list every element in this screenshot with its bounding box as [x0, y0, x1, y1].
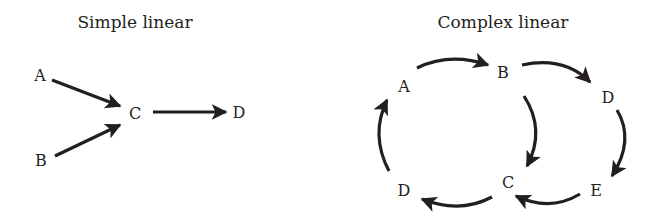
- complex-node-d-bottom: D: [398, 181, 411, 200]
- simple-node-a: A: [34, 66, 46, 85]
- arrow-d-bottom-to-a: [379, 100, 389, 171]
- arrow-e-to-c: [516, 194, 580, 204]
- arrow-b-to-c: [524, 96, 536, 166]
- complex-linear-title: Complex linear: [438, 12, 569, 32]
- complex-node-a: A: [398, 77, 410, 96]
- arrow-b-to-c: [55, 125, 120, 156]
- arrow-a-to-b: [417, 59, 488, 68]
- arrow-c-to-d-bottom: [422, 197, 492, 206]
- simple-node-b: B: [35, 151, 47, 170]
- simple-node-c: C: [129, 104, 141, 123]
- arrow-b-to-d-top: [522, 63, 590, 82]
- complex-node-d-top: D: [602, 88, 615, 107]
- arrow-a-to-c: [52, 80, 120, 106]
- complex-node-b: B: [497, 63, 509, 82]
- simple-node-d: D: [233, 103, 246, 122]
- diagram-arrows: [0, 0, 659, 224]
- arrow-d-top-to-e: [612, 110, 625, 176]
- simple-linear-title: Simple linear: [77, 12, 192, 32]
- complex-node-c: C: [502, 173, 514, 192]
- complex-node-e: E: [590, 181, 602, 200]
